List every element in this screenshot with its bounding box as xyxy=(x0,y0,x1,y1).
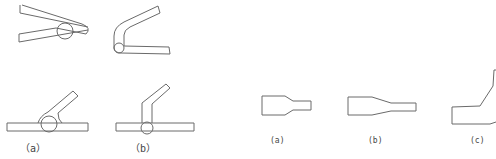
t-joint-a xyxy=(7,91,88,132)
bent-strip xyxy=(114,6,170,54)
label-right-b: (b) xyxy=(368,136,382,145)
bent-profile-c xyxy=(452,70,496,124)
label-right-a: (a) xyxy=(270,136,284,145)
diagram-canvas xyxy=(0,0,496,159)
tapered-strip-b xyxy=(348,97,416,115)
v-joint-with-ball xyxy=(19,5,88,42)
t-joint-b xyxy=(116,84,194,134)
label-left-b: （b） xyxy=(130,140,156,155)
label-right-c: (c) xyxy=(470,136,484,145)
stepped-strip-a xyxy=(262,96,311,115)
label-left-a: （a） xyxy=(20,140,46,155)
